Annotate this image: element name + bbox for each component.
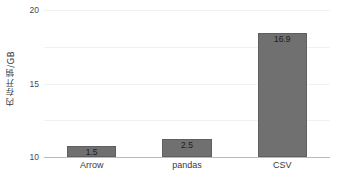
plot-area: 051015201.5Arrow2.5pandas16.9CSV xyxy=(44,10,330,157)
y-axis-title: 内存开销/GB xyxy=(2,0,20,157)
bar-group[interactable]: 2.5pandas xyxy=(162,10,212,157)
bar-chart: 内存开销/GB 051015201.5Arrow2.5pandas16.9CSV xyxy=(0,0,347,179)
x-tick-label: pandas xyxy=(140,161,234,170)
bar-value-label: 2.5 xyxy=(162,141,212,150)
y-tick-label: 15 xyxy=(30,79,39,88)
x-tick-label: CSV xyxy=(236,161,330,170)
y-tick-label: 10 xyxy=(30,153,39,162)
y-tick-label: 20 xyxy=(30,6,39,15)
bar[interactable] xyxy=(258,33,308,157)
bar-group[interactable]: 1.5Arrow xyxy=(67,10,117,157)
y-axis-title-text: 内存开销/GB xyxy=(5,51,17,106)
bar-value-label: 16.9 xyxy=(258,35,308,44)
x-tick-label: Arrow xyxy=(45,161,139,170)
bar-value-label: 1.5 xyxy=(67,148,117,157)
bar-group[interactable]: 16.9CSV xyxy=(258,10,308,157)
x-axis-line: 0 xyxy=(44,157,330,158)
